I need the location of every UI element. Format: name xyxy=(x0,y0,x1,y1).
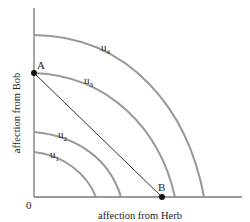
point-b xyxy=(159,194,165,200)
point-a-label: A xyxy=(37,59,45,71)
curve-u2-label: u2 xyxy=(58,128,68,143)
curve-u2 xyxy=(34,132,121,197)
y-axis-label: affection from Bob xyxy=(11,73,22,153)
curve-u1 xyxy=(34,152,96,197)
curve-u4 xyxy=(34,35,204,197)
utility-diagram: A B u4 u3 u2 u1 0 affection from Herb af… xyxy=(0,0,250,222)
x-axis-label: affection from Herb xyxy=(98,210,182,221)
curve-u4-label: u4 xyxy=(101,41,111,56)
curve-u1-label: u1 xyxy=(50,148,60,163)
point-b-label: B xyxy=(158,181,165,193)
origin-label: 0 xyxy=(26,199,32,211)
curve-u3-label: u3 xyxy=(84,74,94,89)
